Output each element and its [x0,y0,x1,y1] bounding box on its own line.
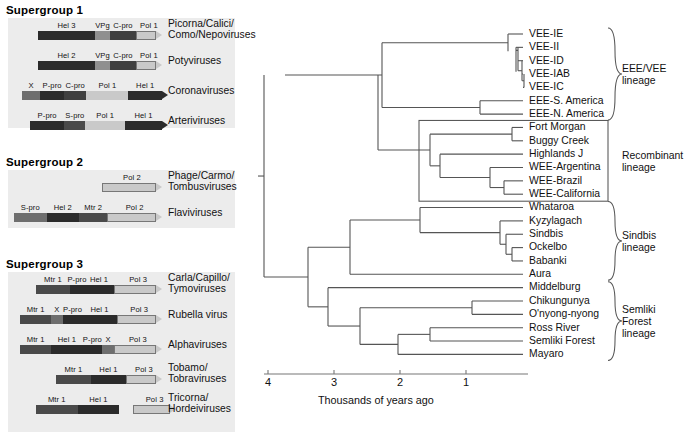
genome-segment-label: Hel 3 [57,21,75,30]
supergroup-title: Supergroup 1 [6,4,83,16]
genome-segment [47,213,80,222]
virus-name-line: Tombusviruses [168,181,237,192]
genome-segment [126,375,156,384]
genome-segment [30,121,64,130]
virus-name-line: Tobamo/ [168,362,226,373]
virus-name-line: Flaviviruses [168,207,222,218]
genome-segment [114,285,156,294]
taxon-label: EEE-N. America [529,108,604,119]
genome-row: S-proHel 2Mtr 2Pol 2Flaviviruses [0,204,250,230]
genome-segment-label: Pol 2 [126,203,144,212]
genome-segment [82,315,116,324]
genome-row: Mtr 1Hel 1Pol 3Tricorna/Hordeiviruses [0,396,250,422]
virus-name-line: Alphaviruses [168,339,227,350]
genome-segment-label: Hel 1 [58,335,76,344]
genome-segment-label: Mtr 1 [27,305,45,314]
genome-arrow-tip [156,213,162,221]
taxon-label: Whataroa [529,201,574,212]
taxon-label: WEE-Argentina [529,161,601,172]
genome-segment [64,121,85,130]
genome-segment-label: Pol 3 [130,305,148,314]
taxon-label: Fort Morgan [529,121,586,132]
genome-segment-label: P-pro [63,305,82,314]
axis-tick-label: 2 [397,376,403,388]
alphavirus-phylogenetic-tree-panel: VEE-IEVEE-IIVEE-IDVEE-IABVEE-ICEEE-S. Am… [250,0,685,438]
genome-arrow-tip [156,183,162,191]
genome-segment [51,345,82,354]
taxon-label: EEE-S. America [529,95,604,106]
genome-segment [114,345,156,354]
genome-segment [85,121,125,130]
genome-segment [125,121,162,130]
lineage-label-line: lineage [622,162,683,174]
taxon-label: Babanki [529,255,567,266]
genome-segment [78,405,120,414]
virus-name-line: Tobraviruses [168,373,226,384]
genome-segment [110,31,136,40]
genome-segment-label: Pol 1 [96,111,114,120]
genome-segment [14,213,47,222]
genome-segment [56,375,91,384]
virus-name-line: Coronaviruses [168,85,234,96]
genome-segment-label: Pol 1 [140,21,158,30]
genome-segment [136,31,156,40]
virus-name-label: Alphaviruses [168,339,227,350]
virus-name-line: Hordeiviruses [168,403,231,414]
supergroup-title: Supergroup 2 [6,156,83,168]
genome-segment-label: Hel 1 [99,365,117,374]
genome-segment-label: P-pro [38,111,57,120]
genome-row: Mtr 1XP-proHel 1Pol 3Rubella virus [0,306,250,332]
genome-segment [102,183,156,192]
genome-segment-label: C-pro [113,21,133,30]
genome-segment-label: Mtr 1 [48,395,66,404]
taxon-label: VEE-II [529,41,559,52]
taxon-label: VEE-IAB [529,68,570,79]
virus-name-label: Potyviruses [168,55,221,66]
genome-segment [40,91,64,100]
genome-segment-label: Mtr 1 [65,365,83,374]
genome-segment [136,61,156,70]
genome-segment [102,345,113,354]
taxon-label: Middelburg [529,281,580,292]
genome-segment [133,405,170,414]
genome-segment-label: X [105,335,110,344]
axis-title: Thousands of years ago [318,394,434,406]
genome-segment-label: Hel 1 [136,81,154,90]
genome-segment-label: Mtr 1 [44,275,62,284]
genome-segment-label: Pol 1 [140,51,158,60]
genome-row: Mtr 1Hel 1Pol 3Tobamo/Tobraviruses [0,366,250,392]
genome-row: P-proS-proPol 1Hel 1Arteriviruses [0,112,250,138]
taxon-label: O'nyong-nyong [529,308,599,319]
genome-row: Hel 3VPgC-proPol 1Picorna/Calici/Como/Ne… [0,22,250,48]
genome-segment-label: Pol 2 [123,173,141,182]
lineage-label-line: Forest [622,316,656,328]
genome-segment-label: Hel 1 [90,275,108,284]
genome-segment-label: X [29,81,34,90]
genome-segment-label: Hel 2 [54,203,72,212]
genome-segment-label: VPg [95,21,110,30]
genome-segment-label: Pol 1 [98,81,116,90]
genome-segment [36,285,70,294]
taxon-label: WEE-Brazil [529,175,582,186]
virus-name-line: Tymoviruses [168,283,230,294]
taxon-label: Sindbis [529,228,563,239]
genome-segment [82,345,102,354]
genome-segment-label: Pol 3 [129,335,147,344]
genome-segment-label: S-pro [21,203,40,212]
virus-name-label: Tricorna/Hordeiviruses [168,392,231,415]
taxon-label: Chikungunya [529,295,590,306]
genome-segment-label: Pol 3 [129,275,147,284]
genome-arrow-tip [156,61,162,69]
lineage-label: SemlikiForestlineage [622,304,656,340]
genome-segment [70,285,84,294]
genome-segment-label: Mtr 2 [84,203,102,212]
taxon-label: VEE-IC [529,81,564,92]
genome-segment-label: P-pro [43,81,62,90]
taxon-label: Semliki Forest [529,335,595,346]
genome-segment [91,375,126,384]
lineage-label-line: Recombinant [622,150,683,162]
lineage-label: Recombinantlineage [622,150,683,174]
axis-tick-label: 4 [265,376,271,388]
virus-name-label: Carla/Capillo/Tymoviruses [168,272,230,295]
genome-row: Hel 2VPgC-proPol 1Potyviruses [0,52,250,78]
